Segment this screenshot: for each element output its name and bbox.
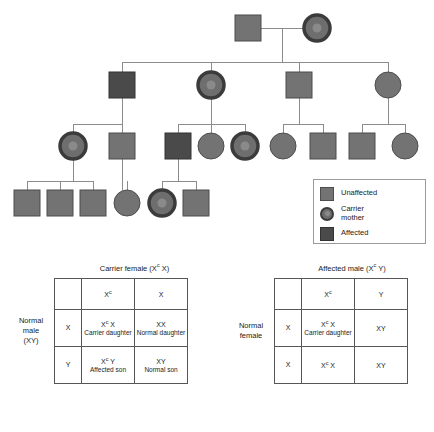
circle-unaffected-icon <box>392 133 418 159</box>
square-unaffected-icon <box>109 133 135 159</box>
square-unaffected-icon <box>310 133 336 159</box>
r-cell-1-2-genotype: XY <box>355 322 407 333</box>
square-unaffected-icon <box>235 15 261 41</box>
colheader-1-sup: c <box>109 289 112 295</box>
legend-item-affected: Affected <box>320 225 421 242</box>
unaffected-square-icon <box>320 187 334 201</box>
carrier-circle-icon <box>320 207 334 221</box>
square-unaffected-icon <box>80 190 106 216</box>
gen4-daughter-4[interactable] <box>114 190 140 216</box>
legend-label-carrier: Carrier mother <box>341 205 364 222</box>
gen4-son-6[interactable] <box>183 190 209 216</box>
punnett-right-cell-1-1: Xc X Carrier daughter <box>302 309 355 346</box>
circle-unaffected-icon <box>198 133 224 159</box>
punnett-left-cell-1-1: Xc X Carrier daughter <box>82 309 135 346</box>
punnett-left-rowheader-2: Y <box>55 346 82 383</box>
punnett-right-colheader-1: Xc <box>302 278 355 309</box>
r-cell-1-1-genotype: Xc X <box>302 318 354 329</box>
gen2-son-1[interactable] <box>109 72 135 98</box>
table-row: Y Xc Y Affected son XY Normal son <box>55 346 188 383</box>
punnett-left-title-tail: X) <box>160 264 170 273</box>
carrier-center-dot-icon <box>158 199 167 208</box>
gen4-son-3[interactable] <box>80 190 106 216</box>
gen3-daughter-5[interactable] <box>232 133 258 159</box>
gen4-son-1[interactable] <box>14 190 40 216</box>
legend-box: Unaffected Carrier mother Affected <box>313 179 426 244</box>
gen3-son-7[interactable] <box>310 133 336 159</box>
cell-2-1-phenotype: Affected son <box>82 366 134 374</box>
punnett-left-title: Carrier female (Xc X) <box>56 262 213 273</box>
punnett-right-table: Xc Y X Xc X Carrier daughter XY X <box>274 278 408 384</box>
legend-label-affected: Affected <box>341 229 368 238</box>
table-row: X Xc X XY <box>275 346 408 383</box>
table-row: X Xc X Carrier daughter XY <box>275 309 408 346</box>
punnett-right-title-tail: Y) <box>376 264 385 273</box>
punnett-right-rowheader-2: X <box>275 346 302 383</box>
circle-unaffected-icon <box>114 190 140 216</box>
carrier-center-dot-icon <box>241 142 250 151</box>
circle-unaffected-icon <box>270 133 296 159</box>
gen2-daughter-4[interactable] <box>375 72 401 98</box>
pedigree-connector-lines <box>27 28 405 190</box>
affected-square-icon <box>320 227 334 241</box>
punnett-square-affected-male: Affected male (Xc Y) Normal female Xc Y … <box>228 262 428 384</box>
punnett-left-cell-2-1: Xc Y Affected son <box>82 346 135 383</box>
gen4-son-2[interactable] <box>47 190 73 216</box>
square-unaffected-icon <box>349 133 375 159</box>
cell-2-1-genotype: Xc Y <box>82 355 134 366</box>
r-cell-2-1-genotype: Xc X <box>302 359 354 370</box>
punnett-left-table: Xc X X Xc X Carrier daughter XX Normal d… <box>54 278 188 384</box>
carrier-center-dot-icon <box>207 81 216 90</box>
punnett-right-side-label: Normal female <box>228 321 274 341</box>
square-unaffected-icon <box>14 190 40 216</box>
carrier-center-dot-icon <box>313 24 322 33</box>
circle-unaffected-icon <box>375 72 401 98</box>
gen3-daughter-6[interactable] <box>270 133 296 159</box>
gen3-son-3[interactable] <box>165 133 191 159</box>
cell-1-1-genotype: Xc X <box>82 318 134 329</box>
gen3-son-2[interactable] <box>109 133 135 159</box>
r-cell-2-2-genotype: XY <box>355 359 407 370</box>
punnett-left-title-main: Carrier female (X <box>100 264 157 273</box>
cell-1-2-phenotype: Normal daughter <box>135 329 187 337</box>
punnett-left-cell-1-2: XX Normal daughter <box>135 309 188 346</box>
table-row: Xc Y <box>275 278 408 309</box>
gen4-daughter-5[interactable] <box>149 190 175 216</box>
punnett-right-rowheader-1: X <box>275 309 302 346</box>
gen3-daughter-4[interactable] <box>198 133 224 159</box>
legend-item-unaffected: Unaffected <box>320 185 421 202</box>
cell-2-2-phenotype: Normal son <box>135 366 187 374</box>
gen1-mother[interactable] <box>304 15 330 41</box>
punnett-right-title: Affected male (Xc Y) <box>276 262 428 273</box>
punnett-left-colheader-1: Xc <box>82 278 135 309</box>
gen3-son-8[interactable] <box>349 133 375 159</box>
punnett-left-colheader-2: X <box>135 278 188 309</box>
legend-item-carrier: Carrier mother <box>320 205 421 222</box>
carrier-center-dot-icon <box>69 142 78 151</box>
table-row: X Xc X Carrier daughter XX Normal daught… <box>55 309 188 346</box>
legend-label-unaffected: Unaffected <box>341 189 377 198</box>
punnett-right-corner-cell <box>275 278 302 309</box>
punnett-left-side-label: Normal male (XY) <box>8 316 54 346</box>
square-affected-icon <box>109 72 135 98</box>
colheader-2-main: X <box>159 291 164 298</box>
gen1-father[interactable] <box>235 15 261 41</box>
punnett-right-colheader-2: Y <box>355 278 408 309</box>
gen3-daughter-1[interactable] <box>60 133 86 159</box>
r-cell-1-1-phenotype: Carrier daughter <box>302 329 354 337</box>
cell-2-2-genotype: XY <box>135 355 187 366</box>
punnett-right-cell-2-1: Xc X <box>302 346 355 383</box>
table-row: Xc X <box>55 278 188 309</box>
gen2-daughter-2[interactable] <box>198 72 224 98</box>
square-unaffected-icon <box>183 190 209 216</box>
punnett-right-cell-2-2: XY <box>355 346 408 383</box>
punnett-left-corner-cell <box>55 278 82 309</box>
cell-1-1-phenotype: Carrier daughter <box>82 329 134 337</box>
gen2-son-3[interactable] <box>286 72 312 98</box>
gen3-daughter-9[interactable] <box>392 133 418 159</box>
cell-1-2-genotype: XX <box>135 318 187 329</box>
punnett-right-cell-1-2: XY <box>355 309 408 346</box>
punnett-right-title-main: Affected male (X <box>318 264 373 273</box>
square-unaffected-icon <box>286 72 312 98</box>
punnett-left-cell-2-2: XY Normal son <box>135 346 188 383</box>
